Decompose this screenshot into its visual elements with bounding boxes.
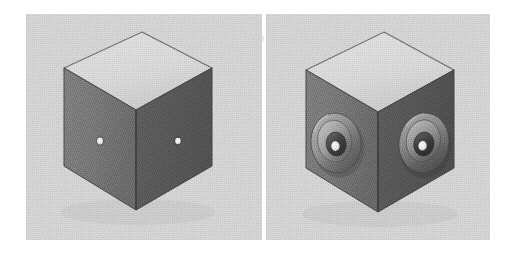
pinhole-right-face (174, 136, 182, 146)
figure-panel-left (26, 14, 262, 240)
isometric-cube-plain (26, 14, 262, 240)
pinhole-left-face (96, 136, 105, 146)
scanned-figure-page: Microchannel Cube Assembly manufacturing (0, 0, 516, 255)
isometric-cube-counterbored (266, 14, 490, 240)
figure-panel-right (266, 14, 490, 240)
